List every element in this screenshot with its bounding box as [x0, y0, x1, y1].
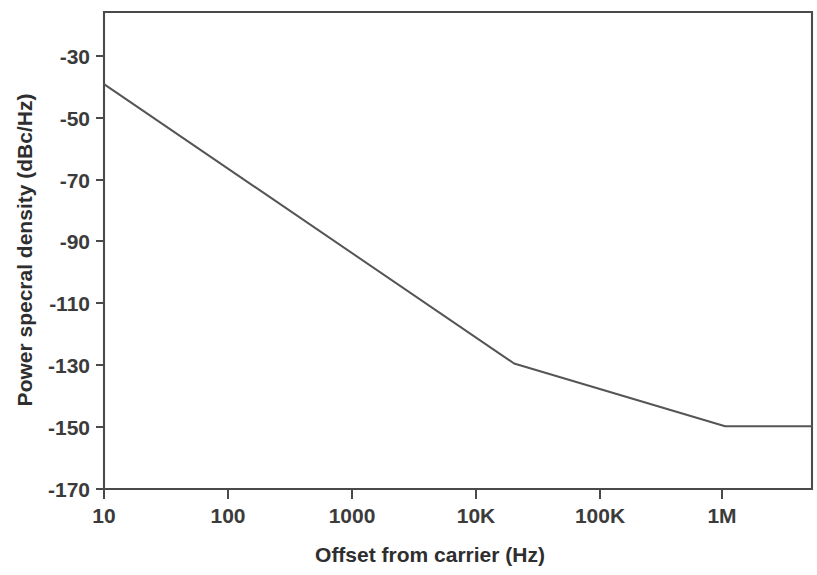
x-tick-label: 100K: [575, 504, 625, 527]
y-tick-label: -150: [48, 416, 90, 439]
y-axis-ticks: [96, 56, 104, 489]
chart-svg: -30 -50 -70 -90 -110 -130 -150 -170 10 1…: [0, 0, 817, 575]
plot-frame: [104, 12, 812, 489]
y-tick-label: -30: [60, 45, 90, 68]
y-axis-title: Power specral density (dBc/Hz): [13, 94, 36, 407]
y-axis-tick-labels: -30 -50 -70 -90 -110 -130 -150 -170: [48, 45, 90, 501]
x-tick-label: 10K: [457, 504, 496, 527]
x-tick-label: 1M: [707, 504, 736, 527]
x-tick-label: 1000: [329, 504, 376, 527]
y-tick-label: -130: [48, 354, 90, 377]
x-tick-label: 10: [92, 504, 115, 527]
x-axis-ticks: [104, 489, 722, 499]
y-tick-label: -50: [60, 107, 90, 130]
y-tick-label: -70: [60, 169, 90, 192]
y-tick-label: -110: [49, 292, 90, 315]
y-tick-label: -90: [60, 230, 90, 253]
phase-noise-figure: -30 -50 -70 -90 -110 -130 -150 -170 10 1…: [0, 0, 817, 575]
y-tick-label: -170: [48, 478, 90, 501]
x-axis-tick-labels: 10 100 1000 10K 100K 1M: [92, 504, 736, 527]
data-series-phase-noise: [104, 84, 812, 426]
x-tick-label: 100: [210, 504, 245, 527]
x-axis-title: Offset from carrier (Hz): [315, 543, 545, 566]
